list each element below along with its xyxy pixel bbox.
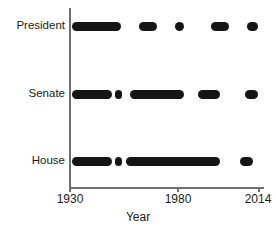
data-segment: [72, 157, 112, 166]
data-segment: [245, 90, 258, 99]
data-segment: [126, 157, 220, 166]
data-row-president: [70, 22, 262, 31]
x-axis-title: Year: [0, 210, 276, 224]
x-tick-label-2014: 2014: [245, 192, 272, 206]
data-segment: [115, 157, 122, 166]
data-segment: [247, 22, 258, 31]
data-segment: [175, 22, 184, 31]
dot-plot-chart: President Senate House 1930 1980 2014 Ye…: [0, 0, 276, 230]
data-segment: [130, 90, 184, 99]
data-segment: [139, 22, 157, 31]
data-row-senate: [70, 90, 262, 99]
data-segment: [198, 90, 220, 99]
data-segment: [115, 90, 122, 99]
plot-area: [70, 8, 262, 188]
data-row-house: [70, 157, 262, 166]
category-label-house: House: [1, 154, 65, 166]
category-label-president: President: [1, 19, 65, 31]
data-segment: [240, 157, 253, 166]
category-label-senate: Senate: [1, 87, 65, 99]
data-segment: [72, 90, 112, 99]
data-segment: [72, 22, 121, 31]
x-tick-label-1980: 1980: [165, 192, 192, 206]
x-tick-label-1930: 1930: [57, 192, 84, 206]
data-segment: [211, 22, 229, 31]
